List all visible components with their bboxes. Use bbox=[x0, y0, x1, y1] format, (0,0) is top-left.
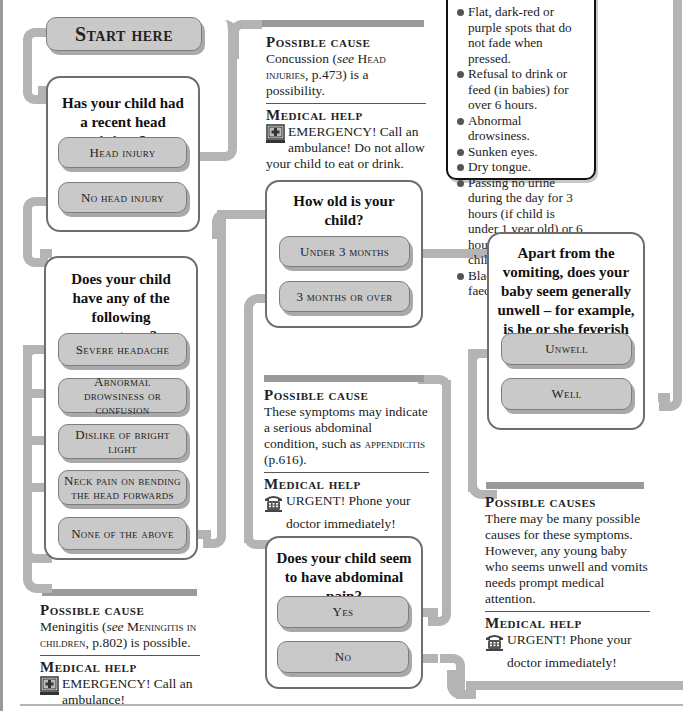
medical-help-text: URGENT! Phone your doctor immediately! bbox=[507, 632, 632, 670]
cause-abdominal-body-end: (p.616). bbox=[264, 452, 307, 467]
connector-symptoms-trunk bbox=[23, 345, 32, 550]
emergency-ambulance-icon bbox=[40, 676, 59, 700]
medical-help-text: URGENT! Phone your doctor immediately! bbox=[286, 493, 411, 531]
emergency-ambulance-icon bbox=[266, 124, 285, 148]
symptom-item: Abnormal drowsiness. bbox=[456, 113, 586, 144]
cross-reference-link[interactable]: appendicitis bbox=[365, 436, 426, 451]
divider bbox=[40, 655, 200, 656]
cause-baby-body: There may be many possible causes for th… bbox=[485, 511, 650, 607]
emergency-symptoms-box: Flat, dark-red or purple spots that do n… bbox=[446, 0, 596, 180]
see-label: see bbox=[337, 51, 354, 66]
divider bbox=[264, 472, 429, 473]
symptom-item: Flat, dark-red or purple spots that do n… bbox=[456, 4, 586, 66]
medical-help-title: Medical help bbox=[264, 476, 429, 493]
cause-meningitis-body: Meningitis (see Meningitis in children, … bbox=[40, 619, 200, 651]
medical-help-text: EMERGENCY! Call an ambulance! Do not all… bbox=[266, 124, 425, 171]
connector-well-curve bbox=[659, 0, 682, 411]
cause-abdominal-title: Possible cause bbox=[264, 387, 429, 404]
symptom-item: Refusal to drink or feed (in babies) for… bbox=[456, 66, 586, 113]
option-abnormal-drowsiness[interactable]: Abnormal drowsiness or confusion bbox=[58, 378, 187, 413]
connector-none-curve bbox=[203, 210, 226, 548]
option-severe-headache[interactable]: Severe headache bbox=[58, 333, 187, 366]
cause-baby-bar bbox=[486, 482, 644, 489]
option-no-head-injury[interactable]: No head injury bbox=[58, 182, 187, 213]
cause-abdominal-panel: Possible cause These symptoms may indica… bbox=[264, 387, 429, 532]
option-head-injury[interactable]: Head injury bbox=[58, 137, 187, 168]
telephone-icon bbox=[485, 632, 504, 655]
cause-head-body: Concussion (see Head injuries, p.473) is… bbox=[266, 51, 426, 99]
option-under-3-months[interactable]: Under 3 months bbox=[279, 236, 410, 267]
medical-help-row: EMERGENCY! Call an ambulance! Do not all… bbox=[266, 124, 426, 172]
divider bbox=[266, 103, 426, 104]
medical-help-text: EMERGENCY! Call an ambulance! bbox=[62, 676, 193, 707]
option-no[interactable]: No bbox=[277, 641, 409, 673]
connector-q3-in bbox=[228, 210, 268, 219]
cause-head-bar bbox=[262, 20, 424, 27]
cause-head-title: Possible cause bbox=[266, 34, 426, 51]
connector-bottom-run bbox=[466, 681, 683, 690]
connector-yes-curve bbox=[428, 380, 451, 626]
option-none-of-above[interactable]: None of the above bbox=[58, 517, 187, 550]
cause-meningitis-panel: Possible cause Meningitis (see Meningiti… bbox=[40, 602, 200, 708]
cause-baby-title: Possible causes bbox=[485, 494, 650, 511]
option-well[interactable]: Well bbox=[501, 378, 632, 410]
medical-help-title: Medical help bbox=[485, 615, 650, 632]
cause-abdominal-bar bbox=[264, 375, 424, 382]
option-yes[interactable]: Yes bbox=[277, 596, 409, 628]
medical-help-row: URGENT! Phone your doctor immediately! bbox=[264, 493, 429, 532]
option-neck-pain[interactable]: Neck pain on bending the head forwards bbox=[58, 470, 187, 505]
cause-head-body-text: Concussion ( bbox=[266, 51, 337, 66]
cause-head-panel: Possible cause Concussion (see Head inju… bbox=[266, 34, 426, 172]
connector-head-injury-end bbox=[246, 20, 262, 29]
telephone-icon bbox=[264, 493, 283, 516]
cause-abdominal-body: These symptoms may indicate a serious ab… bbox=[264, 404, 429, 468]
symptom-item: Dry tongue. bbox=[456, 159, 586, 175]
symptom-item: Sunken eyes. bbox=[456, 144, 586, 160]
cause-meningitis-body-text: Meningitis ( bbox=[40, 619, 106, 634]
connector-q2-stub bbox=[40, 249, 52, 258]
divider bbox=[485, 611, 650, 612]
cause-meningitis-bar bbox=[42, 589, 197, 596]
see-label: see bbox=[106, 619, 123, 634]
medical-help-title: Medical help bbox=[40, 659, 200, 676]
medical-help-title: Medical help bbox=[266, 107, 426, 124]
cause-meningitis-title: Possible cause bbox=[40, 602, 200, 619]
page-bottom-rule bbox=[20, 704, 683, 706]
page-edge bbox=[0, 0, 3, 711]
question-child-age-text: How old is your child? bbox=[285, 192, 403, 230]
medical-help-row: URGENT! Phone your doctor immediately! bbox=[485, 632, 650, 671]
option-3-months-or-over[interactable]: 3 months or over bbox=[279, 281, 410, 312]
cause-meningitis-body-end: , p.802) is possible. bbox=[86, 635, 191, 650]
cause-baby-panel: Possible causes There may be many possib… bbox=[485, 494, 650, 671]
option-unwell[interactable]: Unwell bbox=[501, 333, 632, 365]
option-dislike-bright-light[interactable]: Dislike of bright light bbox=[58, 424, 187, 459]
start-here-button[interactable]: Start here bbox=[46, 17, 202, 51]
